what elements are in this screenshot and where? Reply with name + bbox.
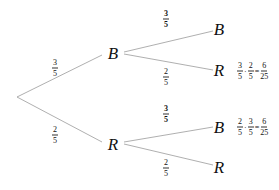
product-result: 6 25 [260,62,268,81]
branch-R-to-B [124,127,213,142]
branch-root-to-R [17,97,102,142]
branch-B-to-B [124,31,213,52]
node-B-R: R [214,62,224,79]
node-R-R: R [214,159,224,176]
prob-root-B: 3 5 [52,59,58,78]
prob-B-B: 3 5 [163,10,169,29]
prob-R-R: 2 5 [163,159,169,178]
prob-R-B: 3 5 [163,105,169,124]
product-R-B: 2 5 · 3 5 = 6 25 [237,118,268,137]
node-R-B: B [214,119,224,136]
node-R: R [108,136,118,153]
node-B: B [108,45,118,62]
product-result: 6 25 [260,118,268,137]
tree-branches [0,0,279,190]
prob-B-R: 2 5 [163,68,169,87]
prob-root-R: 2 5 [52,126,58,145]
branch-root-to-B [17,55,102,97]
product-B-R: 3 5 · 2 5 = 6 25 [237,62,268,81]
node-B-B: B [214,21,224,38]
